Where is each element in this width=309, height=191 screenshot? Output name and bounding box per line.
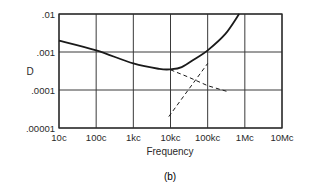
grid-lines: [59, 14, 282, 128]
x-axis-label: Frequency: [146, 146, 193, 157]
chart-figure: .01.001.0001.00001 10c100c1kc10kc100kc1M…: [0, 0, 309, 191]
x-tick-label: 10kc: [160, 132, 180, 143]
x-tick-label: 100c: [86, 132, 107, 143]
y-axis-label: D: [26, 66, 33, 77]
x-tick-label: 10c: [51, 132, 67, 143]
y-tick-label: .01: [42, 9, 55, 20]
data-series: [59, 14, 239, 117]
x-tick-label: 100kc: [195, 132, 221, 143]
asymptote-dashed-line: [171, 70, 228, 92]
figure-caption: (b): [164, 171, 176, 182]
y-tick-label: .001: [37, 47, 56, 58]
x-tick-labels: 10c100c1kc10kc100kc1Mc10Mc: [51, 132, 294, 143]
y-tick-label: .0001: [31, 85, 55, 96]
x-tick-label: 1kc: [126, 132, 141, 143]
dissipation-curve: [59, 14, 239, 70]
x-tick-label: 10Mc: [270, 132, 293, 143]
x-tick-label: 1Mc: [236, 132, 254, 143]
